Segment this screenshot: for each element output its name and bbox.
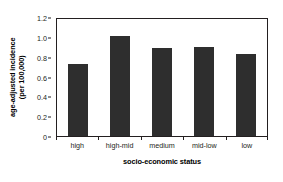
y-axis-tick-label: 0.8 (37, 53, 47, 62)
x-axis-category-mid-low: mid-low (183, 141, 225, 153)
bar-slot (141, 19, 183, 136)
x-axis-category-medium: medium (141, 141, 183, 153)
bar-mid-low (194, 47, 213, 136)
bar-slot (183, 19, 225, 136)
x-axis-tick-mark (141, 137, 142, 140)
y-axis-tick-label: 0.6 (37, 73, 47, 82)
bar-slot (225, 19, 267, 136)
x-axis-tick-mark (226, 137, 227, 140)
x-axis-tick-mark (183, 137, 184, 140)
plot-area (56, 18, 268, 137)
y-axis-tick-label: 0.4 (37, 93, 47, 102)
x-axis-tick-mark (267, 137, 268, 140)
y-axis-ticks: 00.20.40.60.81.01.2 (28, 18, 51, 137)
bar-series (57, 19, 267, 136)
x-axis-tick-mark (56, 137, 57, 140)
y-axis-tick-mark (48, 18, 51, 19)
y-axis-tick-mark (48, 97, 51, 98)
bar-slot (99, 19, 141, 136)
y-axis-tick-mark (48, 37, 51, 38)
y-axis-tick-mark (48, 137, 51, 138)
x-axis-category-labels: highhigh-midmediummid-lowlow (56, 141, 268, 153)
y-axis-title-line-2: (per 100,000) (17, 38, 26, 118)
bar-high (68, 64, 87, 136)
x-axis-category-low: low (226, 141, 268, 153)
bar-high-mid (110, 36, 129, 136)
x-axis-title: socio-economic status (56, 157, 268, 166)
x-axis-category-high-mid: high-mid (98, 141, 140, 153)
y-axis-tick-label: 0 (43, 133, 47, 142)
y-axis-tick-mark (48, 77, 51, 78)
y-axis-tick-mark (48, 117, 51, 118)
y-axis-tick-label: 1.0 (37, 33, 47, 42)
x-axis-category-high: high (56, 141, 98, 153)
y-axis-tick-label: 0.2 (37, 113, 47, 122)
bar-medium (152, 48, 171, 136)
bar-low (236, 54, 255, 136)
bar-chart-figure: age-adjusted incidence (per 100,000) 00.… (0, 0, 283, 182)
y-axis-tick-mark (48, 57, 51, 58)
y-axis-tick-label: 1.2 (37, 14, 47, 23)
x-axis-tick-mark (98, 137, 99, 140)
y-axis-title-line-1: age-adjusted incidence (8, 38, 17, 118)
bar-slot (57, 19, 99, 136)
